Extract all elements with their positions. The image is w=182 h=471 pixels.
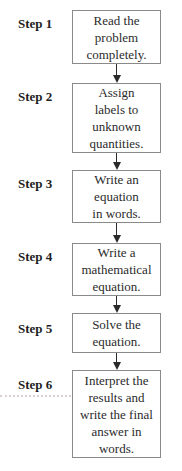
flowchart-figure: Step 1 Read the problem completely. Step… bbox=[0, 0, 182, 471]
arrow-head bbox=[113, 305, 121, 313]
down-arrow-icon bbox=[112, 64, 121, 83]
step-3-label: Step 3 bbox=[18, 176, 68, 192]
step-2-box: Assign labels to unknown quantities. bbox=[72, 83, 161, 153]
arrow-shaft bbox=[116, 296, 118, 305]
arrow-head bbox=[113, 362, 121, 370]
arrow-shaft bbox=[116, 353, 118, 362]
step-6-box: Interpret the results and write the fina… bbox=[72, 370, 161, 458]
arrow-shaft bbox=[116, 64, 118, 75]
step-5-box: Solve the equation. bbox=[72, 313, 161, 353]
down-arrow-icon bbox=[112, 296, 121, 313]
down-arrow-icon bbox=[112, 223, 121, 243]
step-4-label: Step 4 bbox=[18, 249, 68, 265]
down-arrow-icon bbox=[112, 353, 121, 370]
step-3-box: Write an equation in words. bbox=[72, 170, 161, 223]
step-2-label: Step 2 bbox=[18, 89, 68, 105]
step-6-label: Step 6 bbox=[18, 377, 68, 393]
step-4-text: Write a mathematical equation. bbox=[81, 244, 151, 295]
step-1-text: Read the problem completely. bbox=[86, 12, 146, 63]
step-5-text: Solve the equation. bbox=[92, 316, 141, 350]
down-arrow-icon bbox=[112, 153, 121, 170]
step-1-label: Step 1 bbox=[18, 16, 68, 32]
page-dotted-rule bbox=[0, 395, 71, 397]
step-2-text: Assign labels to unknown quantities. bbox=[90, 84, 144, 152]
step-1-box: Read the problem completely. bbox=[72, 10, 161, 64]
step-4-box: Write a mathematical equation. bbox=[72, 243, 161, 296]
arrow-head bbox=[113, 235, 121, 243]
arrow-shaft bbox=[116, 223, 118, 235]
arrow-head bbox=[113, 75, 121, 83]
arrow-shaft bbox=[116, 153, 118, 162]
arrow-head bbox=[113, 162, 121, 170]
step-6-text: Interpret the results and write the fina… bbox=[80, 372, 153, 457]
step-3-text: Write an equation in words. bbox=[92, 171, 140, 222]
step-5-label: Step 5 bbox=[18, 321, 68, 337]
